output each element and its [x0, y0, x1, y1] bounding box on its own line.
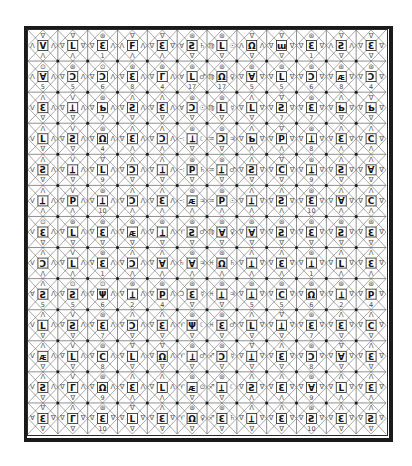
center-glyph: P [69, 196, 76, 206]
left-glyph: ∇ [298, 383, 304, 391]
cell-number: 9 [101, 176, 105, 184]
left-glyph: ∇ [327, 135, 333, 143]
table-cell: ᴁΛVΛ∇ [28, 341, 58, 372]
left-glyph: ∇ [238, 259, 244, 267]
top-glyph: V [70, 311, 75, 319]
table-cell: V∇ΛΛΛ [28, 30, 58, 61]
top-glyph: Λ [279, 404, 284, 412]
top-glyph: ∇ [338, 342, 344, 350]
left-glyph: ∇ [59, 42, 65, 50]
bottom-glyph: ∇ [219, 332, 225, 340]
center-glyph: L [159, 383, 165, 393]
top-glyph: Λ [160, 373, 165, 381]
left-glyph: ∇ [59, 321, 65, 329]
top-glyph: ⊛ [279, 218, 285, 226]
right-glyph: ∇ [289, 321, 295, 329]
table-cell: Ω⊛∇Λ9 [88, 372, 118, 403]
left-glyph: ∇ [148, 228, 154, 236]
right-glyph: Λ [170, 383, 175, 391]
right-glyph: Λ [140, 352, 145, 360]
bottom-glyph: ∇ [40, 114, 46, 122]
right-glyph: ∇ [259, 352, 265, 360]
table-cell: ↃΛ∇Λ∇ [118, 310, 148, 341]
top-glyph: ⊛ [189, 342, 195, 350]
bottom-glyph: ∇ [219, 363, 225, 371]
right-glyph: Λ [111, 73, 116, 81]
left-glyph: ∇ [268, 383, 274, 391]
left-glyph: ∇ [268, 73, 274, 81]
right-glyph: ☉ [229, 197, 235, 205]
table-cell: LV∇ΛΛ [58, 248, 88, 279]
center-glyph: Ƨ [70, 290, 76, 300]
bottom-glyph: ∇ [368, 52, 374, 60]
left-glyph: ∇ [148, 166, 154, 174]
center-glyph: Ƨ [338, 41, 344, 51]
top-glyph: ⊛ [100, 218, 106, 226]
table-cell: ƧΛ∇∇∇ [237, 154, 267, 185]
top-glyph: Λ [369, 311, 374, 319]
cell-number: 17 [218, 83, 226, 91]
right-glyph: ∇ [259, 321, 265, 329]
right-glyph: ♃ [199, 259, 205, 267]
top-glyph: ∇ [248, 32, 254, 40]
right-glyph: ∇ [378, 73, 384, 81]
right-glyph: ∇ [169, 42, 175, 50]
left-glyph: ∇ [298, 228, 304, 236]
table-cell: ɯ∇∇∇∇ [267, 30, 297, 61]
right-glyph: Λ [170, 259, 175, 267]
top-glyph: ⊛ [219, 94, 225, 102]
left-glyph: ∇ [89, 104, 95, 112]
center-glyph: Ↄ [219, 134, 226, 144]
center-glyph: Ↄ [129, 259, 136, 269]
right-glyph: Λ [51, 383, 56, 391]
center-glyph: Ƨ [249, 165, 255, 175]
top-glyph: Λ [130, 373, 135, 381]
left-glyph: ∇ [119, 73, 125, 81]
right-glyph: ∇ [259, 166, 265, 174]
center-glyph: Ɛ [308, 228, 314, 238]
bottom-glyph: ∇ [338, 332, 344, 340]
cell-number: 4 [369, 83, 373, 91]
cell-number: 7 [101, 114, 105, 122]
right-glyph: Λ [51, 104, 56, 112]
bottom-glyph: ∇ [189, 394, 195, 402]
table-cell: ƐΛ∇Λ∇ [147, 310, 177, 341]
right-glyph: ∇ [289, 166, 295, 174]
table-cell: Ɛ⊛∇Λ8 [118, 61, 148, 92]
top-glyph: ⊛ [338, 280, 344, 288]
right-glyph: ∇ [318, 352, 324, 360]
table-cell: Ↄ⊛∇∇6 [297, 61, 327, 92]
right-glyph: ♀ [230, 228, 235, 236]
glyph-grid: V∇ΛΛΛL∇∇∇ΛƐ⊛∇Λ1F∇ΛΛΛƐ∇∇∇ΛƧ⊛Ɐ♄∇L⊛♍☉∇Ω∇ΛΛ∇… [0, 0, 412, 466]
top-glyph: ⊛ [219, 404, 225, 412]
top-glyph: Λ [279, 342, 284, 350]
right-glyph: ☉ [229, 42, 235, 50]
left-glyph: ∇ [268, 42, 274, 50]
bottom-glyph: Λ [70, 52, 75, 60]
table-cell: Ɐ⊛∇∇5 [237, 61, 267, 92]
left-glyph: ♈ [179, 383, 185, 391]
left-glyph: ∇ [238, 166, 244, 174]
top-glyph: V [70, 249, 75, 257]
top-glyph: Λ [339, 94, 344, 102]
table-cell: Ɐ∇∇∇∇ [326, 341, 356, 372]
center-glyph: L [338, 259, 344, 269]
table-cell: Ƨ⊛♈♂∇ [177, 216, 207, 247]
table-cell: PV∇ΛΛ [58, 185, 88, 216]
bottom-glyph: ∇ [40, 394, 46, 402]
bottom-glyph: ∇ [189, 176, 195, 184]
table-cell: Ω⊛∇∇6 [297, 279, 327, 310]
right-glyph: ∇ [378, 290, 384, 298]
bottom-glyph: ∇ [69, 176, 75, 184]
right-glyph: Λ [111, 166, 116, 174]
bottom-glyph: Λ [70, 270, 75, 278]
table-cell: LΛ∇∇∇ [237, 92, 267, 123]
right-glyph: Λ [81, 259, 86, 267]
table-cell: Ω∇∇Λ∇ [147, 341, 177, 372]
center-glyph: Γ [70, 383, 76, 393]
right-glyph: ∇ [289, 383, 295, 391]
right-glyph: ☉ [199, 104, 205, 112]
left-glyph: ∇ [119, 259, 125, 267]
right-glyph: ♂ [199, 228, 205, 236]
center-glyph: Ʇ [248, 352, 255, 362]
